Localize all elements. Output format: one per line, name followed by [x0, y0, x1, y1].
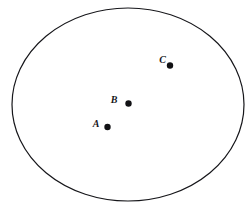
point-a-label: A	[92, 118, 100, 129]
point-b-dot	[125, 100, 131, 106]
point-c-label: C	[159, 54, 166, 65]
point-group-c: C	[159, 54, 173, 69]
point-a-dot	[104, 124, 110, 130]
point-group-b: B	[110, 94, 132, 107]
point-b-label: B	[110, 94, 118, 105]
geometry-figure: A B C	[0, 0, 250, 213]
point-c-dot	[167, 62, 173, 68]
point-group-a: A	[92, 118, 111, 131]
figure-canvas: A B C	[0, 0, 250, 213]
